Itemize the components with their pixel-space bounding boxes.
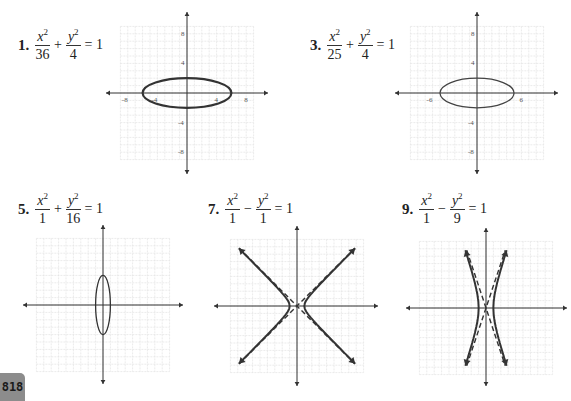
graph-7 <box>214 226 378 386</box>
y-tick-label: -8 <box>178 148 184 156</box>
y-tick-label: 8 <box>471 30 475 38</box>
page-number: 818 <box>2 380 24 394</box>
axes <box>406 228 567 386</box>
graph-9 <box>406 228 567 386</box>
x-tick-label: -8 <box>122 96 128 104</box>
y-tick-label: 4 <box>181 59 185 67</box>
x-tick-label: -6 <box>427 96 433 104</box>
y-tick-label: -4 <box>468 119 474 127</box>
y-tick-label: 4 <box>471 59 475 67</box>
axes <box>23 225 183 384</box>
page-number-badge: 818 <box>0 373 25 401</box>
axes <box>395 12 558 174</box>
graph-1-ellipse: -8-44884-4-8-6684-4-8 <box>0 0 571 401</box>
graph-1: -8-44884-4-8 <box>106 12 268 174</box>
x-tick-label: 6 <box>519 96 523 104</box>
x-tick-label: 8 <box>244 96 248 104</box>
y-tick-label: -8 <box>468 148 474 156</box>
graph-5 <box>23 225 183 384</box>
y-tick-label: 8 <box>181 30 185 38</box>
axes <box>106 12 268 174</box>
y-tick-label: -4 <box>178 119 184 127</box>
graph-3: -6684-4-8 <box>395 12 558 174</box>
